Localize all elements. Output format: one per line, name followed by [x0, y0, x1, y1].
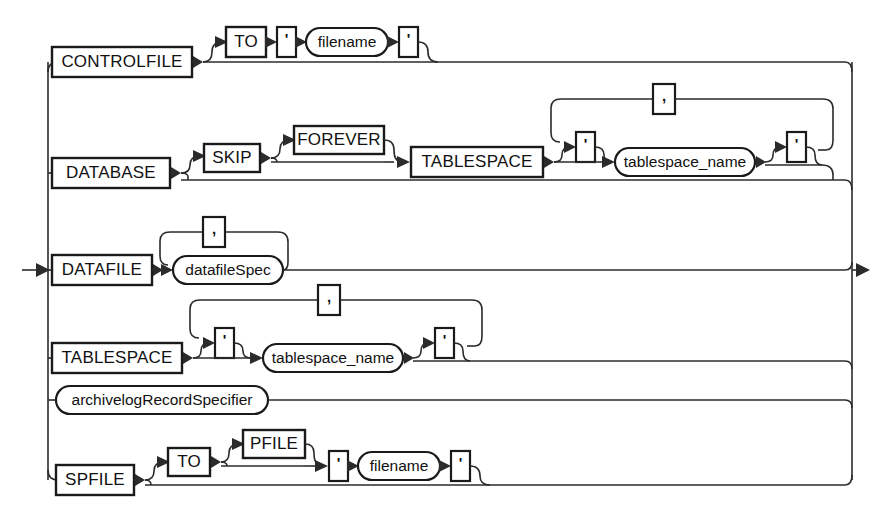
literal-label-close-quote-tablespace: ': [443, 331, 447, 348]
keyword-label-spfile: SPFILE: [65, 470, 125, 489]
branch-controlfile: CONTROLFILE TO ' filename ': [48, 27, 852, 77]
entry-rail: [22, 62, 50, 480]
literal-label-open-quote-database: ': [584, 135, 588, 152]
literal-label-close-quote-database: ': [795, 135, 799, 152]
branch-spfile: SPFILE TO PFILE ' filename: [48, 430, 852, 495]
branch-datafile: DATAFILE datafileSpec ,: [48, 217, 852, 285]
nonterminal-label-tablespace-name-database: tablespace_name: [624, 153, 746, 170]
keyword-label-controlfile: CONTROLFILE: [61, 52, 182, 71]
literal-label-close-quote-spfile: ': [459, 454, 463, 471]
nonterminal-label-filename-spfile: filename: [370, 457, 429, 474]
branch-archivelog: archivelogRecordSpecifier: [48, 386, 852, 414]
literal-label-open-quote-tablespace: ': [223, 331, 227, 348]
keyword-label-datafile: DATAFILE: [62, 260, 142, 279]
nonterminal-label-datafilespec: datafileSpec: [185, 261, 271, 278]
syntax-diagram-canvas: CONTROLFILE TO ' filename ': [0, 0, 890, 522]
nonterminal-label-tablespace-name: tablespace_name: [272, 349, 394, 366]
railroad-diagram: CONTROLFILE TO ' filename ': [0, 0, 890, 522]
keyword-label-skip: SKIP: [212, 148, 252, 167]
keyword-label-pfile: PFILE: [250, 434, 298, 453]
nonterminal-label-archivelogrecordspecifier: archivelogRecordSpecifier: [72, 391, 253, 408]
literal-label-comma-tablespace: ,: [327, 288, 331, 305]
branch-tablespace: TABLESPACE ' tablespace_name ' ,: [48, 285, 852, 373]
literal-label-open-quote-spfile: ': [337, 454, 341, 471]
branch-database: DATABASE SKIP FOREVER TABLESPACE: [48, 84, 852, 190]
literal-label-open-quote-controlfile: ': [285, 30, 289, 47]
keyword-label-forever: FOREVER: [297, 130, 381, 149]
keyword-label-tablespace-database: TABLESPACE: [422, 152, 533, 171]
literal-label-close-quote-controlfile: ': [407, 30, 411, 47]
nonterminal-label-filename-controlfile: filename: [318, 33, 377, 50]
literal-label-comma-datafile: ,: [212, 220, 216, 237]
keyword-label-to-spfile: TO: [177, 452, 201, 471]
keyword-label-database: DATABASE: [66, 163, 156, 182]
keyword-label-tablespace: TABLESPACE: [62, 348, 173, 367]
literal-label-comma-database: ,: [662, 87, 666, 104]
keyword-label-to-controlfile: TO: [234, 32, 258, 51]
exit-rail: [852, 62, 870, 480]
